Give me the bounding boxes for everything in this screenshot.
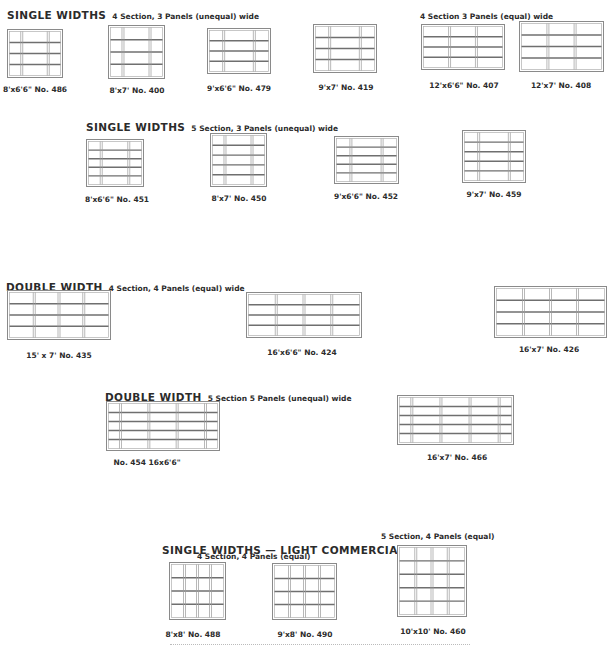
subheader-4-section-4-panels-equal: 4 Section, 4 Panels (equal) xyxy=(197,552,310,561)
door-diagram-408 xyxy=(519,21,604,72)
door-caption-451: 8'x6'6" No. 451 xyxy=(85,195,149,204)
door-caption-490: 9'x8' No. 490 xyxy=(277,630,332,639)
door-diagram-407 xyxy=(421,24,505,70)
footnote-cut-off xyxy=(170,644,470,648)
door-caption-435: 15' x 7' No. 435 xyxy=(26,351,91,360)
door-diagram-435 xyxy=(7,290,111,340)
door-diagram-488 xyxy=(169,562,226,620)
door-caption-424: 16'x6'6" No. 424 xyxy=(267,348,336,357)
door-diagram-466 xyxy=(397,395,514,445)
door-diagram-490 xyxy=(272,563,337,620)
door-diagram-486 xyxy=(7,29,63,78)
door-caption-454: No. 454 16x6'6" xyxy=(113,458,180,467)
door-diagram-454 xyxy=(106,401,220,451)
header-detail: 5 Section, 3 Panels (unequal) wide xyxy=(191,124,338,133)
door-caption-408: 12'x7' No. 408 xyxy=(531,81,591,90)
header-title: SINGLE WIDTHS xyxy=(86,121,185,133)
door-caption-426: 16'x7' No. 426 xyxy=(519,345,579,354)
door-diagram-450 xyxy=(210,133,267,187)
door-caption-479: 9'x6'6" No. 479 xyxy=(207,84,271,93)
door-diagram-451 xyxy=(86,139,144,187)
header-title: SINGLE WIDTHS xyxy=(7,9,106,21)
header-detail: 5 Section 5 Panels (unequal) wide xyxy=(208,394,352,403)
door-caption-488: 8'x8' No. 488 xyxy=(165,630,220,639)
door-diagram-419 xyxy=(313,24,377,73)
door-caption-450: 8'x7' No. 450 xyxy=(211,194,266,203)
door-diagram-400 xyxy=(108,25,165,79)
header-detail: 4 Section, 3 Panels (unequal) wide xyxy=(112,12,259,21)
door-caption-460: 10'x10' No. 460 xyxy=(400,627,465,636)
door-caption-486: 8'x6'6" No. 486 xyxy=(3,85,67,94)
door-caption-466: 16'x7' No. 466 xyxy=(427,453,487,462)
subheader-5-section-4-panels-equal: 5 Section, 4 Panels (equal) xyxy=(381,532,494,541)
door-diagram-424 xyxy=(246,292,362,338)
door-diagram-452 xyxy=(334,136,399,184)
header-detail: 4 Section 3 Panels (equal) wide xyxy=(420,12,553,21)
door-caption-407: 12'x6'6" No. 407 xyxy=(429,81,498,90)
door-diagram-479 xyxy=(207,28,271,74)
door-diagram-426 xyxy=(494,286,607,338)
door-caption-400: 8'x7' No. 400 xyxy=(109,86,164,95)
header-detail: 4 Section, 4 Panels (equal) wide xyxy=(109,284,245,293)
door-diagram-459 xyxy=(462,130,526,183)
door-diagram-460 xyxy=(397,545,467,617)
section-header-single-widths-4-section-unequal: SINGLE WIDTHS4 Section, 3 Panels (unequa… xyxy=(7,4,259,23)
door-caption-452: 9'x6'6" No. 452 xyxy=(334,192,398,201)
door-caption-419: 9'x7' No. 419 xyxy=(318,83,373,92)
door-caption-459: 9'x7' No. 459 xyxy=(466,190,521,199)
